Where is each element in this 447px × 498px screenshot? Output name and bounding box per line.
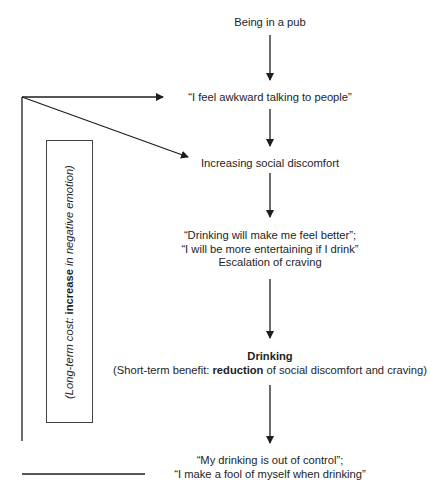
node-text-line-2: “I make a fool of myself when drinking” (95, 468, 445, 482)
node-text-line-3: Escalation of craving (95, 256, 445, 270)
node-text: “I feel awkward talking to people” (95, 91, 445, 105)
node-text-line-1: “My drinking is out of control”; (95, 454, 445, 468)
node-text-line-1: “Drinking will make me feel better”; (95, 229, 445, 243)
node-being-in-pub: Being in a pub (95, 16, 445, 30)
node-subtitle: (Short-term benefit: reduction of social… (95, 364, 445, 378)
node-feel-awkward: “I feel awkward talking to people” (95, 91, 445, 105)
node-text: Increasing social discomfort (95, 157, 445, 171)
node-outcome: “My drinking is out of control”; “I make… (95, 454, 445, 481)
long-term-cost-label: (Long-term cost: increase in negative em… (63, 169, 75, 399)
node-title: Drinking (95, 350, 445, 364)
node-text-line-2: “I will be more entertaining if I drink” (95, 243, 445, 257)
node-social-discomfort: Increasing social discomfort (95, 157, 445, 171)
node-craving: “Drinking will make me feel better”; “I … (95, 229, 445, 270)
node-drinking: Drinking (Short-term benefit: reduction … (95, 350, 445, 377)
node-text: Being in a pub (95, 16, 445, 30)
